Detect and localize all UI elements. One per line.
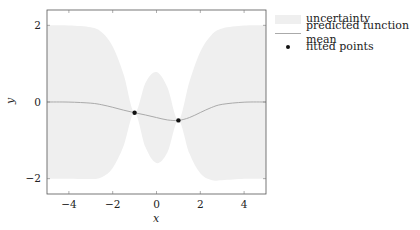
y-tick-label: −2 xyxy=(26,172,41,184)
plot-area: −4−2024 −202 xyxy=(26,10,266,210)
x-tick-label: 0 xyxy=(153,198,160,210)
line-swatch-icon xyxy=(275,26,301,40)
y-tick-label: 2 xyxy=(34,19,41,31)
legend-item-mean: predicted function mean xyxy=(275,26,420,40)
x-tick-label: 2 xyxy=(197,198,204,210)
dot-swatch-icon xyxy=(275,40,301,54)
x-axis-label: x xyxy=(153,212,160,225)
band-swatch-icon xyxy=(275,12,301,26)
fitted-point xyxy=(132,111,136,115)
y-tick-label: 0 xyxy=(34,96,41,108)
legend: uncertainty predicted function mean fitt… xyxy=(275,12,420,54)
x-tick-label: 4 xyxy=(241,198,248,210)
x-tick-label: −2 xyxy=(105,198,120,210)
legend-label: fitted points xyxy=(306,40,374,54)
y-axis-label: y xyxy=(4,97,17,105)
x-tick-label: −4 xyxy=(61,198,77,210)
fitted-point xyxy=(176,118,180,122)
